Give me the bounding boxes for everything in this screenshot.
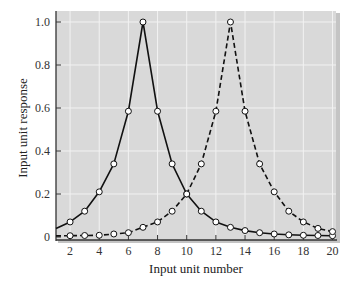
y-tick-label: 0.4 <box>35 144 50 158</box>
data-point-marker <box>257 230 263 236</box>
x-tick-label: 10 <box>181 244 193 258</box>
data-point-marker <box>330 229 336 235</box>
y-tick-label: 0.8 <box>35 58 50 72</box>
x-tick-label: 4 <box>96 244 102 258</box>
data-point-marker <box>140 19 146 25</box>
x-tick-label: 16 <box>268 244 280 258</box>
x-tick-label: 14 <box>239 244 251 258</box>
x-tick-label: 20 <box>327 244 339 258</box>
data-point-marker <box>315 225 321 231</box>
x-tick-labels: 2468101214161820 <box>67 244 338 258</box>
data-point-marker <box>67 233 73 239</box>
y-tick-label: 0.2 <box>35 187 50 201</box>
x-tick-label: 12 <box>210 244 222 258</box>
data-point-marker <box>242 108 248 114</box>
x-tick-label: 2 <box>67 244 73 258</box>
x-tick-label: 6 <box>125 244 131 258</box>
data-point-marker <box>227 224 233 230</box>
data-point-marker <box>286 208 292 214</box>
data-point-marker <box>111 231 117 237</box>
data-point-marker <box>213 219 219 225</box>
y-tick-label: 0 <box>44 230 50 244</box>
data-point-marker <box>82 208 88 214</box>
data-point-marker <box>227 19 233 25</box>
line-chart: 00.20.40.60.81.0 2468101214161820 Input … <box>0 0 357 284</box>
x-tick-label: 18 <box>297 244 309 258</box>
data-point-marker <box>213 108 219 114</box>
data-point-marker <box>67 219 73 225</box>
x-tick-label: 8 <box>155 244 161 258</box>
y-tick-label: 0.6 <box>35 101 50 115</box>
data-point-marker <box>300 232 306 238</box>
data-point-marker <box>125 108 131 114</box>
y-axis-title: Input unit response <box>15 78 30 178</box>
data-point-marker <box>271 231 277 237</box>
data-point-marker <box>140 224 146 230</box>
data-point-marker <box>169 208 175 214</box>
data-point-marker <box>111 161 117 167</box>
data-point-marker <box>125 230 131 236</box>
data-point-marker <box>155 219 161 225</box>
x-axis-title: Input unit number <box>149 261 244 276</box>
data-point-marker <box>286 232 292 238</box>
data-point-marker <box>169 161 175 167</box>
data-point-marker <box>271 189 277 195</box>
y-tick-labels: 00.20.40.60.81.0 <box>35 15 50 244</box>
data-point-marker <box>315 232 321 238</box>
data-point-marker <box>198 161 204 167</box>
data-point-marker <box>300 219 306 225</box>
data-point-marker <box>96 232 102 238</box>
data-point-marker <box>198 208 204 214</box>
y-tick-label: 1.0 <box>35 15 50 29</box>
data-point-marker <box>82 232 88 238</box>
data-point-marker <box>96 189 102 195</box>
data-point-marker <box>184 191 190 197</box>
data-point-marker <box>257 161 263 167</box>
data-point-marker <box>242 228 248 234</box>
data-point-marker <box>155 108 161 114</box>
